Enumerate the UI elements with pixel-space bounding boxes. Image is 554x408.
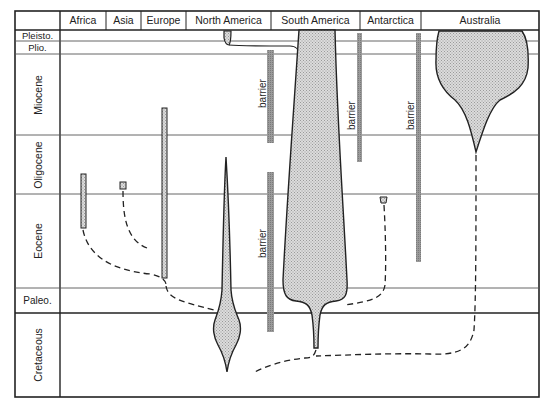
- barrier-label-australia: barrier: [405, 96, 416, 136]
- period-oligocene-label: Oligocene: [32, 141, 44, 188]
- header-south-america: South America: [271, 11, 360, 30]
- australia-lineage: [436, 31, 528, 152]
- header-antarctica: Antarctica: [360, 11, 421, 30]
- period-paleocene: Paleo.: [15, 288, 60, 313]
- header-australia: Australia: [421, 11, 539, 30]
- south-america-lineage: [283, 30, 347, 348]
- africa-route: [83, 230, 166, 284]
- period-cretaceous: Cretaceous: [15, 313, 60, 397]
- barrier-na-sa-upper: [267, 50, 274, 143]
- barrier-label-na-lower: barrier: [257, 224, 268, 264]
- africa-range: [81, 174, 86, 228]
- period-miocene: Miocene: [15, 54, 60, 135]
- period-miocene-label: Miocene: [31, 75, 43, 115]
- header-africa: Africa: [60, 11, 106, 30]
- barrier-antarctica-australia: [416, 33, 421, 262]
- period-pliocene: Plio.: [15, 41, 60, 54]
- period-pleistocene: Pleisto.: [15, 30, 60, 41]
- period-cretaceous-label: Cretaceous: [32, 328, 44, 382]
- header-asia: Asia: [106, 11, 141, 30]
- barrier-sa-antarctica: [357, 33, 362, 162]
- period-eocene: Eocene: [15, 194, 60, 288]
- north-america-lineage: [214, 157, 241, 372]
- header-europe: Europe: [141, 11, 186, 30]
- biogeography-diagram: Africa Asia Europe North America South A…: [0, 0, 554, 408]
- na-sa-connector: [229, 45, 299, 55]
- asia-route: [123, 191, 147, 248]
- antarctica-route: [345, 205, 386, 305]
- barrier-label-na-upper: barrier: [257, 74, 268, 114]
- barrier-label-antarctica: barrier: [346, 96, 357, 136]
- europe-range: [162, 108, 167, 278]
- period-eocene-label: Eocene: [32, 223, 44, 259]
- header-north-america: North America: [186, 11, 271, 30]
- europe-route: [166, 286, 214, 310]
- diagram-canvas: [0, 0, 554, 408]
- north-america-pleistocene-lineage: [224, 31, 231, 45]
- period-oligocene: Oligocene: [15, 135, 60, 194]
- south-america-to-cretaceous-route: [253, 350, 316, 373]
- antarctica-range: [380, 197, 387, 203]
- asia-range: [120, 182, 126, 189]
- barrier-na-sa-lower: [267, 172, 274, 332]
